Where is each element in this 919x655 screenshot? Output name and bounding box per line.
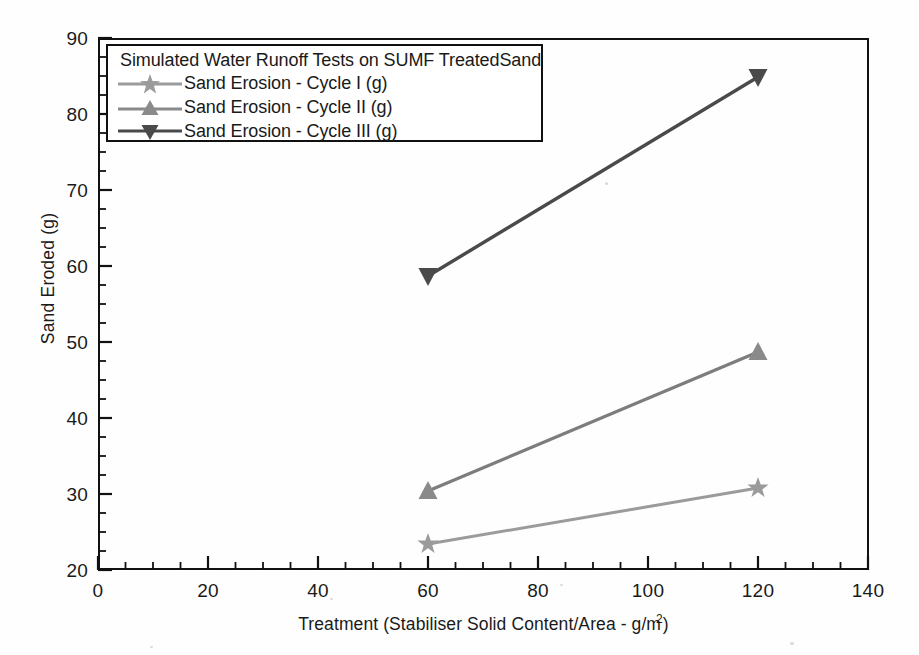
x-tick-label: 80 [503, 580, 573, 602]
x-axis-title-suffix: ) [663, 614, 669, 634]
triangle-up-icon [116, 97, 184, 119]
y-tick-label: 40 [26, 408, 88, 430]
x-tick-label: 20 [173, 580, 243, 602]
legend-entry-cycle-ii: Sand Erosion - Cycle II (g) [116, 96, 541, 119]
x-tick-label: 0 [63, 580, 133, 602]
x-tick-label: 40 [283, 580, 353, 602]
y-axis-title: Sand Eroded (g) [38, 169, 59, 389]
legend-entry-cycle-i: Sand Erosion - Cycle I (g) [116, 72, 541, 95]
x-tick-label: 120 [723, 580, 793, 602]
legend-label: Sand Erosion - Cycle III (g) [184, 121, 397, 142]
scan-speckle [790, 642, 794, 645]
x-axis-title: Treatment (Stabiliser Solid Content/Area… [98, 612, 869, 635]
y-tick-label: 80 [26, 104, 88, 126]
legend-label: Sand Erosion - Cycle II (g) [184, 97, 392, 118]
x-tick-label: 140 [833, 580, 903, 602]
legend-entry-cycle-iii: Sand Erosion - Cycle III (g) [116, 120, 541, 143]
x-axis-title-superscript: 2 [656, 612, 663, 626]
y-tick-label: 90 [26, 28, 88, 50]
chart-legend: Simulated Water Runoff Tests on SUMF Tre… [106, 44, 543, 142]
legend-title: Simulated Water Runoff Tests on SUMF Tre… [116, 50, 541, 71]
scan-speckle [150, 646, 153, 648]
x-tick-label: 60 [393, 580, 463, 602]
triangle-down-icon [116, 121, 184, 143]
y-tick-label: 30 [26, 484, 88, 506]
x-axis-title-main: Treatment (Stabiliser Solid Content/Area… [298, 614, 661, 634]
x-tick-label: 100 [613, 580, 683, 602]
chart-figure: 90 80 70 60 50 40 30 20 0 20 40 60 80 10… [0, 0, 919, 655]
y-tick-label: 20 [26, 560, 88, 582]
star-icon [116, 73, 184, 95]
legend-label: Sand Erosion - Cycle I (g) [184, 73, 387, 94]
